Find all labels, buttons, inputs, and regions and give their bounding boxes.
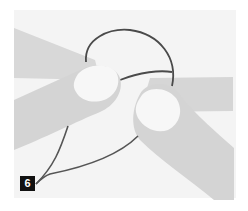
knot-drawing — [0, 0, 248, 211]
step-number-badge: 6 — [20, 176, 35, 191]
knot-illustration: 6 — [0, 0, 248, 211]
